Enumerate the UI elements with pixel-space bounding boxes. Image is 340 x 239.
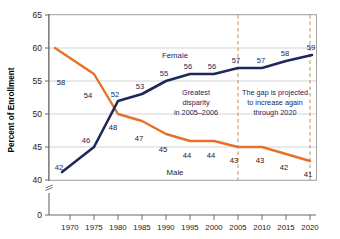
point-label-male: 45 (159, 145, 167, 154)
y-tick-label: 60 (33, 43, 43, 53)
enrollment-by-sex-chart: 65 60 55 50 45 40 0 Percent of Enrollmen… (0, 0, 340, 239)
x-tick-label: 1970 (61, 223, 79, 232)
point-label-female: 55 (160, 69, 168, 78)
y-tick-label: 45 (33, 142, 43, 152)
x-tick-label: 1990 (157, 223, 175, 232)
point-label-male: 43 (230, 156, 238, 165)
point-label-male: 48 (109, 123, 117, 132)
annotation-line: through 2020 (253, 108, 296, 117)
point-label-female: 46 (82, 136, 90, 145)
point-label-female: 57 (257, 56, 265, 65)
point-label-male: 44 (207, 151, 215, 160)
series-label-male: Male (167, 168, 184, 177)
point-label-female: 57 (232, 56, 240, 65)
y-tick-label: 55 (33, 76, 43, 86)
annotation-line: to increase again (247, 98, 303, 107)
y-tick-label: 50 (33, 109, 43, 119)
annotation-line: in 2005–2006 (174, 108, 218, 117)
y-axis-title: Percent of Enrollment (7, 67, 16, 152)
x-tick-label: 2010 (253, 223, 271, 232)
x-tick-label: 2005 (229, 223, 247, 232)
x-tick-label: 2020 (301, 223, 319, 232)
annotation-line: Greatest (182, 88, 210, 97)
x-tick-labels: 1970 1975 1980 1985 1990 1995 2000 2005 … (61, 223, 319, 232)
chart-background (0, 0, 340, 239)
point-label-female: 58 (281, 49, 289, 58)
point-label-male: 41 (304, 170, 312, 179)
series-label-female: Female (162, 51, 188, 60)
point-label-male: 54 (84, 91, 92, 100)
point-label-female: 53 (136, 82, 144, 91)
point-label-male: 43 (256, 156, 264, 165)
point-label-female: 56 (208, 62, 216, 71)
x-tick-label: 2000 (205, 223, 223, 232)
annotation-line: disparity (182, 98, 210, 107)
y-tick-label: 0 (37, 210, 42, 220)
x-tick-label: 2015 (277, 223, 295, 232)
point-label-female: 52 (111, 90, 119, 99)
point-label-female: 56 (184, 62, 192, 71)
x-tick-label: 1995 (181, 223, 199, 232)
point-label-male: 47 (135, 134, 143, 143)
y-tick-label: 40 (33, 175, 43, 185)
point-label-male: 58 (57, 78, 65, 87)
point-label-male: 44 (183, 151, 191, 160)
point-label-female: 42 (55, 163, 63, 172)
x-tick-label: 1985 (133, 223, 151, 232)
y-tick-label: 65 (33, 10, 43, 20)
annotation-line: The gap is projected (242, 88, 308, 97)
point-label-male: 42 (280, 163, 288, 172)
x-tick-label: 1975 (85, 223, 103, 232)
x-tick-label: 1980 (109, 223, 127, 232)
point-label-female: 59 (307, 43, 315, 52)
